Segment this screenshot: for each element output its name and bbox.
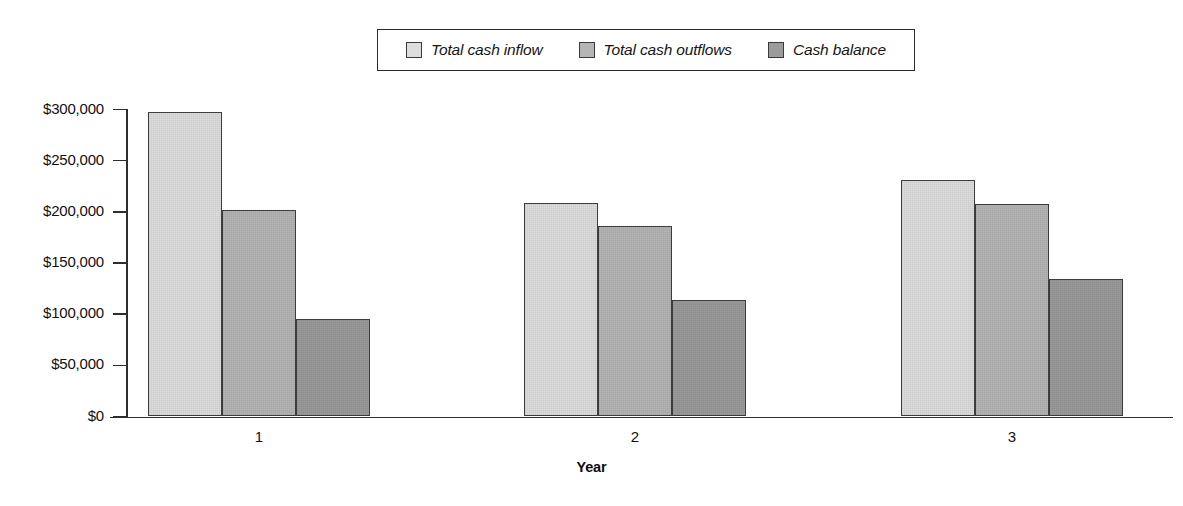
y-axis-tick-label: $150,000 [43, 253, 104, 270]
y-axis-tick-label: $100,000 [43, 304, 104, 321]
x-axis-line [110, 417, 1173, 419]
y-axis-tick [113, 262, 126, 263]
y-axis-line [126, 109, 128, 418]
y-axis-tick [113, 416, 126, 417]
bar [1049, 279, 1123, 416]
bar [222, 210, 296, 417]
y-axis-tick [113, 211, 126, 212]
bar [148, 112, 222, 417]
x-axis-category-label: 3 [982, 428, 1042, 445]
y-axis-tick [113, 313, 126, 314]
bar [296, 319, 370, 416]
bar [975, 204, 1049, 417]
bar [901, 180, 975, 416]
bar [598, 226, 672, 416]
y-axis-tick [113, 109, 126, 110]
bar [672, 300, 746, 417]
x-axis-title: Year [0, 459, 1183, 475]
y-axis-tick-label: $250,000 [43, 151, 104, 168]
y-axis-tick-label: $0 [88, 407, 104, 424]
y-axis-tick [113, 160, 126, 161]
x-axis-category-label: 1 [229, 428, 289, 445]
bar-chart-plot-area: $0$50,000$100,000$150,000$200,000$250,00… [0, 0, 1183, 506]
bar [524, 203, 598, 417]
x-axis-category-label: 2 [605, 428, 665, 445]
y-axis-tick-label: $300,000 [43, 100, 104, 117]
y-axis-tick [113, 365, 126, 366]
y-axis-tick-label: $50,000 [51, 355, 104, 372]
y-axis-tick-label: $200,000 [43, 202, 104, 219]
